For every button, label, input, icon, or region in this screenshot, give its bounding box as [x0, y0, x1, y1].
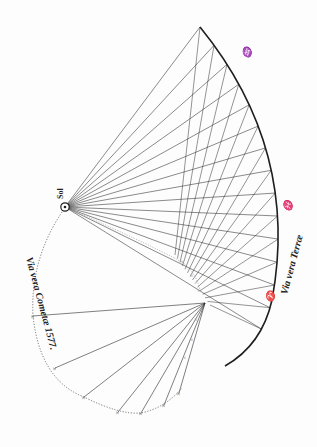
sun-earth-line: [65, 148, 266, 207]
earth-sightline: [210, 305, 261, 329]
comet-position-marker: ×: [82, 394, 86, 402]
inner-position-marker: ×: [197, 288, 200, 294]
sun-earth-line: [65, 207, 277, 262]
earth-sightline: [203, 262, 278, 294]
comet-position-marker: ×: [53, 365, 57, 373]
comet-position-marker: ×: [116, 409, 120, 417]
sun-earth-line: [65, 207, 274, 285]
sun-earth-line: [65, 126, 258, 207]
sun-earth-line: [65, 84, 239, 207]
sun-earth-line: [65, 170, 271, 207]
sun-earth-line: [65, 207, 278, 239]
inner-position-marker: ×: [190, 337, 193, 343]
earth-sightline: [185, 105, 249, 269]
comet-sightline: [179, 303, 205, 393]
sightline-group: [65, 27, 278, 329]
comet-position-marker: ×: [162, 402, 166, 410]
sun-earth-line: [65, 64, 227, 207]
sun-earth-line: [65, 27, 200, 207]
comet-position-marker: ×: [139, 410, 143, 418]
inner-position-marker: ×: [183, 355, 186, 361]
aries-symbol: ♈: [262, 287, 278, 304]
comet-orbit-diagram: ××××××××××××× Sol Via vera Terræ Via ver…: [0, 0, 317, 447]
inner-position-marker: ×: [194, 317, 197, 323]
earth-path-label: Via vera Terræ: [278, 233, 304, 295]
sun-earth-line: [65, 45, 214, 207]
sun-earth-line: [65, 207, 270, 308]
comet-path-label: Via vera Cometæ 1577.: [24, 256, 59, 351]
sun-earth-line: [65, 193, 275, 207]
sun-label: Sol: [56, 188, 65, 199]
sun-earth-line: [65, 207, 278, 216]
comet-sightline: [118, 303, 205, 412]
earth-sightline: [208, 301, 271, 307]
pisces-symbol: ♓: [281, 198, 294, 213]
diagram-canvas: ××××××××××××× Sol Via vera Terræ Via ver…: [0, 0, 317, 447]
earth-sightline: [190, 148, 266, 276]
comet-sightline: [84, 303, 205, 397]
inner-position-marker: ×: [190, 273, 193, 279]
comet-position-marker: ×: [177, 390, 181, 398]
sun-earth-line: [65, 105, 249, 207]
earth-sightline: [193, 170, 272, 280]
aquarius-symbol: ♒: [240, 44, 255, 60]
inner-position-marker: ×: [180, 259, 183, 265]
earth-sightline: [195, 193, 275, 284]
earth-sightline: [180, 64, 227, 262]
earth-sightline: [188, 126, 259, 273]
sun-symbol: [61, 203, 69, 211]
